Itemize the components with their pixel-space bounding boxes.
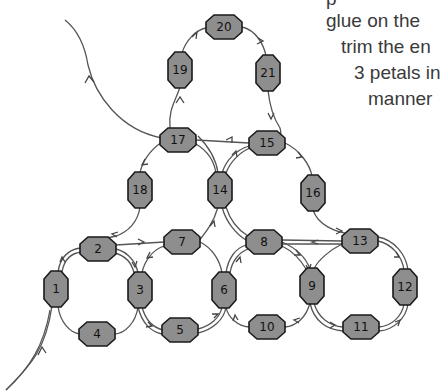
bead-9: 9: [300, 268, 324, 304]
beads: 1 2 3 4 5 6 7 8 9 10 11 12 13 14 15 16 1…: [44, 15, 417, 346]
bead-10: 10: [249, 315, 285, 339]
bead-13: 13: [342, 229, 378, 253]
bead-14: 14: [208, 172, 232, 208]
bead-20: 20: [206, 15, 242, 39]
bead-15: 15: [249, 131, 285, 155]
bead-label-1: 1: [52, 282, 60, 296]
bead-11: 11: [343, 315, 379, 339]
bead-label-8: 8: [260, 235, 268, 249]
bead-label-11: 11: [353, 320, 368, 334]
bead-16: 16: [301, 175, 325, 211]
bead-label-18: 18: [132, 183, 147, 197]
bead-1: 1: [44, 271, 68, 307]
bead-6: 6: [212, 272, 236, 308]
thread-exit: [65, 20, 162, 138]
bead-label-13: 13: [352, 234, 367, 248]
bead-21: 21: [256, 55, 280, 91]
bead-label-16: 16: [305, 186, 320, 200]
bead-12: 12: [393, 269, 417, 305]
bead-8: 8: [246, 230, 282, 254]
bead-7: 7: [164, 230, 200, 254]
bead-label-10: 10: [259, 320, 274, 334]
bead-18: 18: [128, 172, 152, 208]
bead-label-3: 3: [136, 283, 144, 297]
bead-4: 4: [79, 322, 115, 346]
bead-19: 19: [168, 52, 192, 88]
bead-17: 17: [160, 128, 196, 152]
bead-label-20: 20: [216, 20, 231, 34]
bead-label-4: 4: [93, 327, 101, 341]
bead-label-17: 17: [170, 133, 185, 147]
bead-2: 2: [80, 237, 116, 261]
bead-label-7: 7: [178, 235, 186, 249]
bead-label-12: 12: [397, 280, 412, 294]
bead-label-15: 15: [259, 136, 274, 150]
bead-label-19: 19: [172, 63, 187, 77]
bead-label-6: 6: [220, 283, 228, 297]
bead-label-9: 9: [308, 279, 316, 293]
bead-label-2: 2: [94, 242, 102, 256]
bead-3: 3: [128, 272, 152, 308]
bead-label-14: 14: [212, 183, 227, 197]
bead-label-21: 21: [260, 66, 275, 80]
bead-5: 5: [162, 318, 198, 342]
bead-label-5: 5: [176, 323, 184, 337]
thread-entry: [6, 306, 52, 390]
